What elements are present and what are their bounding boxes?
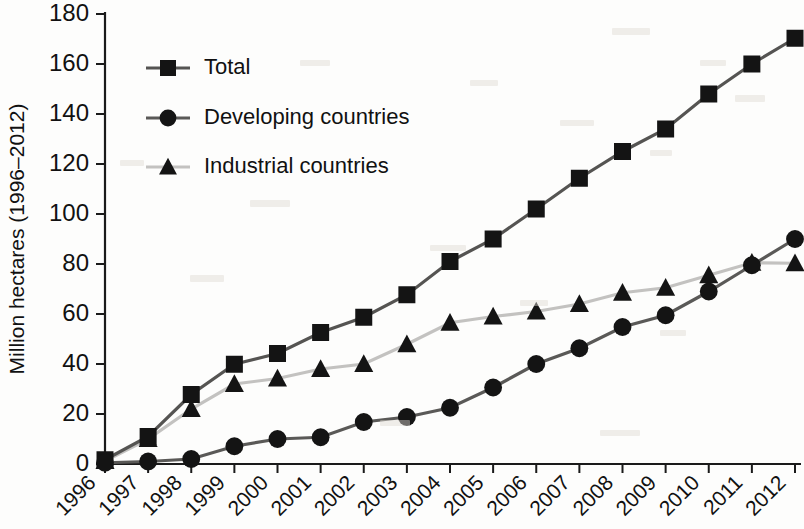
legend: TotalDeveloping countriesIndustrial coun… [146, 54, 409, 178]
data-point-square [700, 86, 717, 103]
data-point-circle [355, 413, 373, 431]
series-industrial-countries [95, 253, 804, 469]
y-axis-tick-label: 60 [62, 299, 89, 326]
data-point-circle [527, 355, 545, 373]
x-axis-tick-label: 1996 [51, 471, 100, 520]
scan-artifact [470, 80, 498, 86]
x-axis-tick-label: 2012 [741, 471, 790, 520]
x-axis-tick-label: 2007 [525, 471, 574, 520]
data-point-circle [484, 379, 502, 397]
data-point-circle [614, 318, 632, 336]
data-point-square [183, 386, 200, 403]
scan-artifact [120, 160, 144, 166]
data-point-circle [441, 399, 459, 417]
data-point-circle [657, 306, 675, 324]
line-chart: 0204060801001201401601801996199719981999… [0, 0, 804, 529]
y-axis-tick-label: 160 [49, 49, 89, 76]
data-point-square [528, 201, 545, 218]
y-axis-tick-label: 120 [49, 149, 89, 176]
data-point-triangle [397, 334, 416, 352]
data-point-square [442, 253, 459, 270]
data-point-circle [182, 450, 200, 468]
x-axis-tick-label: 1999 [180, 471, 229, 520]
scan-artifact [700, 60, 726, 66]
legend-label-2: Industrial countries [204, 153, 389, 178]
y-axis-title: Million hectares (1996–2012) [5, 104, 28, 375]
legend-label-0: Total [204, 54, 250, 79]
scan-artifact [600, 430, 640, 436]
scan-artifact [300, 60, 330, 66]
legend-label-1: Developing countries [204, 104, 409, 129]
x-axis-tick-label: 2001 [266, 471, 315, 520]
scan-artifact [735, 95, 765, 102]
data-point-circle [743, 256, 761, 274]
data-point-square [140, 428, 157, 445]
x-axis-tick-label: 2009 [611, 471, 660, 520]
data-point-circle [786, 230, 804, 248]
data-point-square [743, 56, 760, 73]
data-point-square [657, 121, 674, 138]
x-axis-tick-label: 2010 [654, 471, 703, 520]
data-point-square [614, 143, 631, 160]
scan-artifact [650, 150, 672, 156]
data-point-circle [96, 454, 114, 472]
scan-artifact [380, 420, 410, 426]
data-point-square [226, 356, 243, 373]
scan-artifact [430, 245, 466, 251]
y-axis-tick-label: 180 [49, 0, 89, 26]
x-axis-tick-label: 2005 [439, 471, 488, 520]
scan-artifact [560, 120, 594, 126]
y-axis-tick-label: 40 [62, 349, 89, 376]
x-axis-tick-label: 2004 [396, 470, 446, 520]
data-point-square [571, 170, 588, 187]
data-point-circle [160, 110, 177, 127]
data-point-circle [139, 453, 157, 471]
y-axis-tick-label: 20 [62, 399, 89, 426]
data-point-circle [700, 283, 718, 301]
data-point-square [787, 30, 804, 47]
scan-artifact [660, 330, 686, 336]
scan-artifact [190, 275, 224, 282]
data-point-triangle [354, 354, 373, 372]
data-point-circle [312, 428, 330, 446]
scan-artifact [250, 200, 290, 207]
data-point-square [269, 345, 286, 362]
series-line [105, 263, 795, 461]
y-axis-tick-label: 100 [49, 199, 89, 226]
data-point-square [398, 286, 415, 303]
x-axis-tick-label: 1997 [94, 471, 143, 520]
scan-artifact [520, 300, 548, 306]
data-point-circle [269, 430, 287, 448]
x-axis-tick-label: 2003 [352, 471, 401, 520]
data-point-circle [225, 437, 243, 455]
data-point-square [312, 324, 329, 341]
y-axis-tick-label: 80 [62, 249, 89, 276]
scan-artifact [612, 28, 650, 35]
data-point-square [160, 60, 176, 76]
x-axis-tick-label: 2011 [698, 471, 746, 519]
x-axis-tick-label: 1998 [137, 471, 186, 520]
x-axis-tick-label: 2000 [223, 471, 272, 520]
y-axis-tick-label: 140 [49, 99, 89, 126]
data-point-square [355, 309, 372, 326]
chart-container: 0204060801001201401601801996199719981999… [0, 0, 804, 529]
data-point-square [485, 231, 502, 248]
x-axis-tick-label: 2002 [309, 471, 358, 520]
series-line [105, 239, 795, 463]
data-point-circle [570, 339, 588, 357]
x-axis-tick-label: 2006 [482, 471, 531, 520]
x-axis-tick-label: 2008 [568, 471, 617, 520]
